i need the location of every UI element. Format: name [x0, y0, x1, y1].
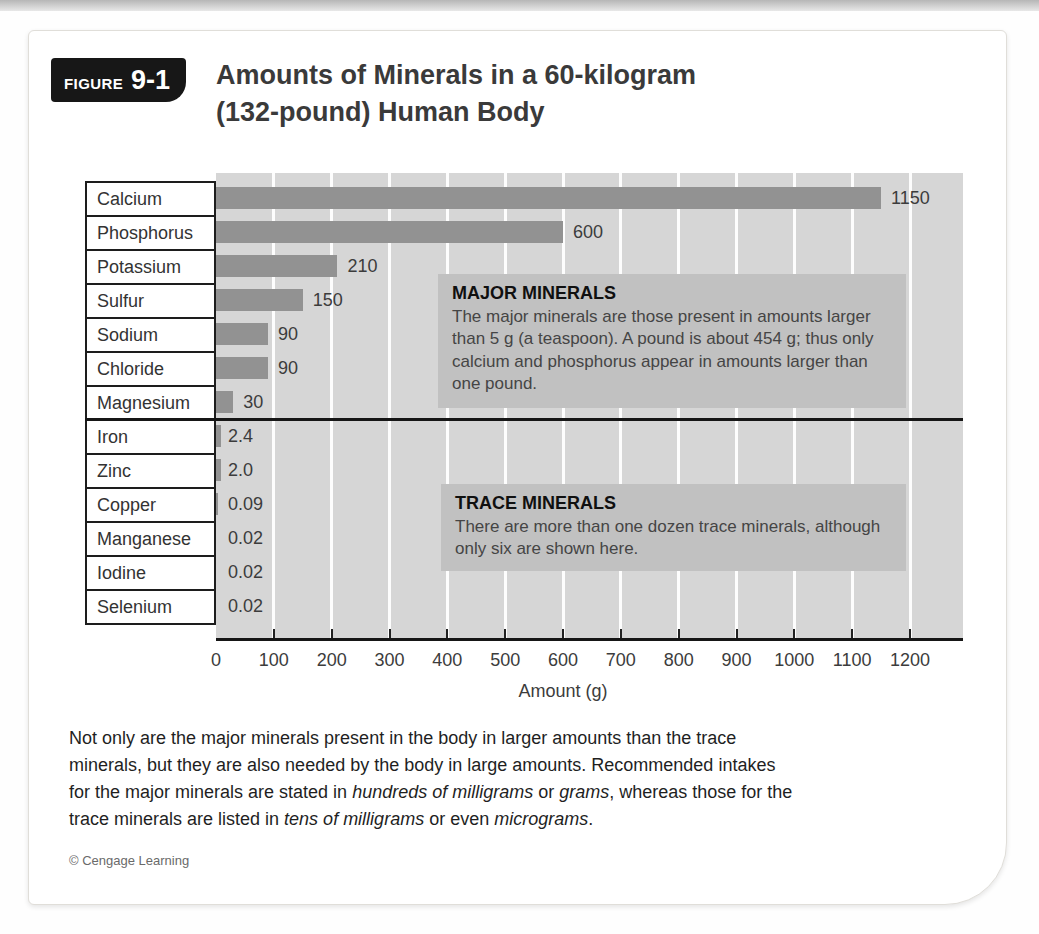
axis-tick-800 [678, 629, 680, 638]
figure-title: Amounts of Minerals in a 60-kilogram(132… [216, 57, 696, 131]
figure-badge-word: FIGURE [64, 62, 123, 106]
category-label-magnesium: Magnesium [85, 385, 216, 421]
category-label-chloride: Chloride [85, 351, 216, 387]
bar-value-iron: 2.4 [228, 419, 253, 453]
caption-run: , whereas those for the [609, 782, 792, 802]
annotation-trace-body: There are more than one dozen trace mine… [455, 516, 892, 561]
caption-run: for the major minerals are stated in [69, 782, 352, 802]
category-label-calcium: Calcium [85, 181, 216, 217]
x-axis-title: Amount (g) [216, 681, 910, 702]
x-tick-label-800: 800 [664, 650, 694, 671]
figure-title-line1: Amounts of Minerals in a 60-kilogram [216, 60, 696, 90]
caption-italic-run: micrograms [494, 809, 588, 829]
x-tick-label-1200: 1200 [890, 650, 930, 671]
axis-tick-600 [562, 629, 564, 638]
bar-value-magnesium: 30 [243, 385, 263, 419]
annotation-major-title: MAJOR MINERALS [452, 283, 892, 304]
bar-phosphorus [216, 221, 563, 243]
caption-run: minerals, but they are also needed by th… [69, 755, 775, 775]
bar-value-selenium: 0.02 [228, 589, 263, 623]
x-axis-tick-labels: 0100200300400500600700800900100011001200 [85, 650, 963, 672]
x-tick-label-600: 600 [548, 650, 578, 671]
bar-value-zinc: 2.0 [228, 453, 253, 487]
caption-run: trace minerals are listed in [69, 809, 284, 829]
axis-tick-1000 [793, 629, 795, 638]
axis-tick-300 [389, 629, 391, 638]
annotation-major-body: The major minerals are those present in … [452, 306, 892, 396]
x-tick-label-100: 100 [259, 650, 289, 671]
category-label-column: CalciumPhosphorusPotassiumSulfurSodiumCh… [85, 181, 216, 625]
bar-calcium [216, 187, 881, 209]
category-label-sodium: Sodium [85, 317, 216, 353]
bar-value-calcium: 1150 [891, 181, 930, 215]
category-label-phosphorus: Phosphorus [85, 215, 216, 251]
caption: Not only are the major minerals present … [69, 725, 974, 833]
caption-run: . [588, 809, 593, 829]
annotation-trace-title: TRACE MINERALS [455, 493, 892, 514]
category-label-zinc: Zinc [85, 453, 216, 489]
figure-badge-number: 9-1 [131, 58, 170, 102]
bar-sulfur [216, 289, 303, 311]
bar-value-phosphorus: 600 [573, 215, 603, 249]
axis-tick-400 [446, 629, 448, 638]
figure-card: FIGURE 9-1 Amounts of Minerals in a 60-k… [28, 30, 1007, 905]
x-tick-label-1100: 1100 [833, 650, 872, 671]
gridline-1200 [909, 173, 912, 638]
axis-tick-700 [620, 629, 622, 638]
x-tick-label-200: 200 [317, 650, 347, 671]
bar-potassium [216, 255, 337, 277]
x-tick-label-900: 900 [721, 650, 751, 671]
bar-value-potassium: 210 [347, 249, 377, 283]
major-trace-divider [85, 418, 963, 421]
axis-tick-900 [736, 629, 738, 638]
bar-value-sodium: 90 [278, 317, 298, 351]
axis-tick-1100 [851, 629, 853, 638]
copyright-credit: © Cengage Learning [69, 853, 189, 868]
bar-magnesium [216, 391, 233, 413]
category-label-sulfur: Sulfur [85, 283, 216, 319]
caption-italic-run: hundreds of milligrams [352, 782, 533, 802]
category-label-selenium: Selenium [85, 589, 216, 625]
x-tick-label-1000: 1000 [774, 650, 814, 671]
caption-run: or [533, 782, 559, 802]
category-label-iodine: Iodine [85, 555, 216, 591]
bar-value-copper: 0.09 [228, 487, 263, 521]
category-label-manganese: Manganese [85, 521, 216, 557]
bar-value-manganese: 0.02 [228, 521, 263, 555]
bar-zinc [216, 459, 221, 481]
bar-value-sulfur: 150 [313, 283, 343, 317]
x-tick-label-400: 400 [432, 650, 462, 671]
bar-sodium [216, 323, 268, 345]
mineral-bar-chart: CalciumPhosphorusPotassiumSulfurSodiumCh… [85, 173, 963, 718]
plot-area: MAJOR MINERALS The major minerals are th… [216, 173, 963, 641]
bar-chloride [216, 357, 268, 379]
x-tick-label-500: 500 [490, 650, 520, 671]
bar-copper [216, 493, 218, 515]
caption-italic-run: grams [559, 782, 609, 802]
annotation-major-minerals: MAJOR MINERALS The major minerals are th… [438, 274, 906, 408]
x-tick-label-0: 0 [211, 650, 221, 671]
bar-iron [216, 425, 221, 447]
category-label-potassium: Potassium [85, 249, 216, 285]
axis-tick-100 [273, 629, 275, 638]
figure-title-line2: (132-pound) Human Body [216, 97, 545, 127]
x-tick-label-700: 700 [606, 650, 636, 671]
bar-value-iodine: 0.02 [228, 555, 263, 589]
category-label-copper: Copper [85, 487, 216, 523]
caption-run: Not only are the major minerals present … [69, 728, 736, 748]
axis-tick-500 [504, 629, 506, 638]
caption-run: or even [424, 809, 494, 829]
figure-badge: FIGURE 9-1 [51, 58, 186, 102]
caption-italic-run: tens of milligrams [284, 809, 424, 829]
x-tick-label-300: 300 [374, 650, 404, 671]
category-label-iron: Iron [85, 419, 216, 455]
annotation-trace-minerals: TRACE MINERALS There are more than one d… [441, 484, 906, 571]
axis-tick-200 [331, 629, 333, 638]
scan-edge-top [0, 0, 1039, 11]
bar-value-chloride: 90 [278, 351, 298, 385]
axis-tick-1200 [909, 629, 911, 638]
